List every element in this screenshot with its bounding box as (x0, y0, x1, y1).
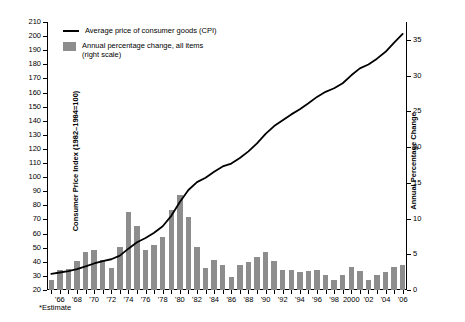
x-tick (86, 290, 87, 294)
x-tick (274, 290, 275, 294)
y-tick-label-right: 5 (413, 251, 417, 259)
y-tick-right (407, 111, 411, 112)
x-tick (317, 290, 318, 294)
x-tick (326, 290, 327, 294)
y-tick-label-left: 120 (28, 145, 41, 153)
x-tick (180, 290, 181, 294)
x-tick (111, 290, 112, 294)
x-tick-label: '82 (192, 296, 202, 304)
x-tick-label: '94 (295, 296, 305, 304)
y-tick-label-left: 100 (28, 173, 41, 181)
x-tick (300, 290, 301, 294)
y-tick-label-left: 40 (33, 258, 41, 266)
y-tick-label-right: 35 (413, 36, 421, 44)
x-tick (248, 290, 249, 294)
x-tick (343, 290, 344, 294)
x-tick (283, 290, 284, 294)
legend-item-cpi-line: Average price of consumer goods (CPI) (63, 26, 217, 36)
footnote: *Estimate (39, 303, 71, 312)
y-tick-label-right: 30 (413, 72, 421, 80)
x-tick (128, 290, 129, 294)
x-tick (154, 290, 155, 294)
x-tick-label: '92 (278, 296, 288, 304)
x-tick (171, 290, 172, 294)
x-tick-label: '86 (226, 296, 236, 304)
y-tick-right (407, 76, 411, 77)
x-tick (146, 290, 147, 294)
x-tick (394, 290, 395, 294)
y-tick-label-left: 50 (33, 244, 41, 252)
x-tick (214, 290, 215, 294)
legend-label-annual-change: Annual percentage change, all items (rig… (82, 41, 203, 60)
x-tick-label: '04 (381, 296, 391, 304)
x-tick (403, 290, 404, 294)
x-tick-label: '74 (124, 296, 134, 304)
bar-swatch-icon (63, 42, 76, 51)
x-tick (240, 290, 241, 294)
legend-label-cpi: Average price of consumer goods (CPI) (85, 26, 217, 36)
x-tick (188, 290, 189, 294)
y-tick-label-left: 150 (28, 103, 41, 111)
x-tick (368, 290, 369, 294)
x-tick (94, 290, 95, 294)
x-tick (163, 290, 164, 294)
x-tick-label: '72 (106, 296, 116, 304)
y-tick-label-left: 80 (33, 202, 41, 210)
y-tick-label-right: 25 (413, 108, 421, 116)
footnote-text: *Estimate (39, 303, 71, 312)
y-tick-label-right: 10 (413, 215, 421, 223)
x-tick (120, 290, 121, 294)
y-tick-right (407, 254, 411, 255)
x-tick (103, 290, 104, 294)
y-tick-right (407, 147, 411, 148)
x-tick (77, 290, 78, 294)
y-tick-label-right: 15 (413, 179, 421, 187)
x-tick (60, 290, 61, 294)
x-tick (51, 290, 52, 294)
line-swatch-icon (63, 30, 79, 32)
x-tick (334, 290, 335, 294)
y-tick-label-left: 200 (28, 32, 41, 40)
x-tick (231, 290, 232, 294)
x-tick (351, 290, 352, 294)
y-axis-right-title: Annual Percentage Change (410, 112, 419, 210)
y-tick-label-left: 180 (28, 61, 41, 69)
x-tick (197, 290, 198, 294)
x-tick (223, 290, 224, 294)
y-tick-label-left: 70 (33, 216, 41, 224)
cpi-chart: Consumer Price Index (1982–1984=100) Ann… (0, 0, 465, 322)
x-tick (386, 290, 387, 294)
x-tick-label: '78 (158, 296, 168, 304)
x-tick (257, 290, 258, 294)
x-tick (206, 290, 207, 294)
x-tick (308, 290, 309, 294)
cpi-line-path (51, 34, 402, 274)
y-tick-right (407, 290, 411, 291)
y-tick-label-left: 210 (28, 18, 41, 26)
y-tick-label-left: 90 (33, 188, 41, 196)
y-tick-label-right: 0 (413, 286, 417, 294)
y-tick-label-left: 170 (28, 75, 41, 83)
y-tick-label-left: 20 (33, 286, 41, 294)
x-tick (360, 290, 361, 294)
x-tick-label: '76 (141, 296, 151, 304)
legend: Average price of consumer goods (CPI) An… (63, 26, 217, 65)
y-tick-left (43, 290, 47, 291)
x-tick-label: 2000 (343, 296, 360, 304)
y-tick-right (407, 183, 411, 184)
x-tick-label: '88 (244, 296, 254, 304)
legend-item-annual-change: Annual percentage change, all items (rig… (63, 41, 217, 60)
x-tick (266, 290, 267, 294)
x-tick-label: '84 (209, 296, 219, 304)
y-tick-right (407, 40, 411, 41)
x-tick-label: '90 (261, 296, 271, 304)
y-tick-label-left: 60 (33, 230, 41, 238)
x-tick-label: '98 (329, 296, 339, 304)
y-tick-label-left: 110 (29, 159, 41, 167)
x-tick (68, 290, 69, 294)
y-tick-label-left: 140 (28, 117, 41, 125)
x-tick-label: '96 (312, 296, 322, 304)
x-tick (137, 290, 138, 294)
x-tick (291, 290, 292, 294)
y-tick-label-right: 20 (413, 143, 421, 151)
